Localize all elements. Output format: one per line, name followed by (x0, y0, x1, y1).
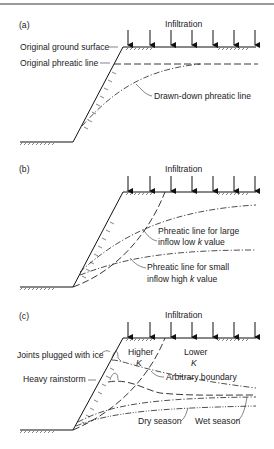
panel-c: (c) Infiltration Higher (17, 310, 256, 433)
label-lower-k: K (191, 358, 198, 368)
panel-c-infiltration-label: Infiltration (165, 310, 202, 320)
label-small-inflow-line1: Phreatic line for small (147, 262, 229, 272)
label-arbitrary-boundary: Arbitrary boundary (166, 372, 237, 382)
label-heavy-rainstorm: Heavy rainstorm (23, 374, 86, 384)
infiltration-arrows-icon (128, 30, 255, 45)
label-large-inflow-line2: inflow low k value (158, 237, 225, 247)
panel-b-infiltration-label: Infiltration (165, 164, 202, 174)
panel-b-label: (b) (19, 164, 30, 174)
panel-a: (a) Infiltration Original ground surface… (19, 19, 258, 145)
phreatic-line-heavy-rainstorm (108, 381, 256, 395)
label-joints-plugged-with-ice: Joints plugged with ice (17, 350, 104, 360)
label-higher-k: K (136, 358, 143, 368)
infiltration-arrows-icon (128, 176, 255, 191)
panel-b: (b) Infiltration Phreatic line for large… (19, 164, 256, 290)
slope-phreatic-diagram: (a) Infiltration Original ground surface… (0, 0, 274, 449)
label-small-inflow-line2: inflow high k value (147, 274, 217, 284)
panel-a-infiltration-label: Infiltration (165, 19, 202, 29)
panel-c-label: (c) (19, 311, 29, 321)
label-higher: Higher (128, 347, 153, 357)
label-original-phreatic-line: Original phreatic line (20, 58, 99, 68)
infiltration-arrows-icon (128, 322, 255, 337)
label-wet-season: Wet season (195, 416, 240, 426)
boundary-line (73, 192, 165, 287)
label-original-ground-surface: Original ground surface (20, 42, 110, 52)
panel-a-label: (a) (19, 20, 30, 30)
label-lower: Lower (184, 347, 208, 357)
label-large-inflow-line1: Phreatic line for large (158, 226, 239, 236)
label-dry-season: Dry season (138, 416, 182, 426)
label-drawn-down-phreatic-line: Drawn-down phreatic line (154, 91, 251, 101)
